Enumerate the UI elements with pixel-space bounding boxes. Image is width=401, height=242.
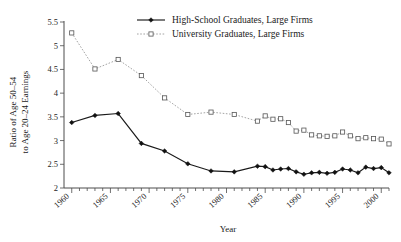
- axes: 22.533.544.555.5196019651970197519801985…: [47, 17, 389, 210]
- data-point: [333, 170, 338, 175]
- series-university: [70, 31, 391, 146]
- data-point: [286, 166, 291, 171]
- x-tick-label: 1980: [207, 191, 226, 210]
- legend-item: University Graduates, Large Firms: [137, 29, 305, 39]
- data-point: [69, 120, 74, 125]
- line-chart: 22.533.544.555.5196019651970197519801985…: [0, 0, 401, 242]
- series-line: [72, 33, 389, 144]
- data-point: [364, 136, 368, 140]
- y-tick-label: 5.5: [47, 17, 58, 27]
- data-point: [340, 130, 344, 134]
- data-point: [325, 171, 330, 176]
- data-point: [302, 128, 306, 132]
- x-tick-label: 1965: [90, 191, 109, 210]
- data-point: [309, 171, 314, 176]
- y-tick-label: 5: [54, 41, 58, 51]
- data-point: [348, 168, 353, 173]
- data-point: [310, 133, 314, 137]
- data-point: [139, 73, 143, 77]
- y-tick-label: 4.5: [47, 64, 58, 74]
- data-point: [278, 167, 283, 172]
- data-point: [286, 120, 290, 124]
- data-point: [263, 164, 268, 169]
- legend-marker-square: [149, 32, 153, 36]
- chart-legend: High-School Graduates, Large FirmsUniver…: [137, 15, 313, 39]
- data-point: [356, 137, 360, 141]
- data-point: [302, 172, 307, 177]
- series-line: [72, 114, 389, 175]
- x-tick-label: 1995: [323, 191, 342, 210]
- data-point: [317, 170, 322, 175]
- data-point: [186, 112, 190, 116]
- x-tick-label: 1960: [52, 191, 71, 210]
- data-point: [294, 170, 299, 175]
- data-point: [371, 166, 376, 171]
- x-tick-label: 2000: [361, 191, 380, 210]
- data-point: [232, 112, 236, 116]
- y-tick-label: 2: [54, 183, 58, 193]
- y-tick-label: 4: [54, 88, 59, 98]
- series-high-school: [69, 111, 391, 176]
- x-tick-label: 1990: [284, 191, 303, 210]
- x-tick-label: 1970: [129, 191, 148, 210]
- axis-spines: [64, 21, 389, 188]
- data-point: [209, 169, 214, 174]
- y-axis-title-line2: to Age 20–24 Earnings: [20, 70, 30, 153]
- data-point: [255, 164, 260, 169]
- data-point: [93, 113, 98, 118]
- y-axis-title-line1: Ratio of Age 50–54: [8, 76, 18, 147]
- y-tick-label: 2.5: [47, 159, 58, 169]
- data-point: [348, 134, 352, 138]
- data-point: [371, 137, 375, 141]
- data-point: [325, 134, 329, 138]
- data-point: [116, 57, 120, 61]
- data-point: [93, 67, 97, 71]
- legend-label: High-School Graduates, Large Firms: [172, 15, 313, 25]
- x-axis-title: Year: [220, 224, 237, 234]
- chart-figure: 22.533.544.555.5196019651970197519801985…: [0, 0, 401, 242]
- data-point: [271, 168, 276, 173]
- data-point: [271, 117, 275, 121]
- data-point: [340, 167, 345, 172]
- data-point: [317, 134, 321, 138]
- legend-item: High-School Graduates, Large Firms: [137, 15, 313, 25]
- x-tick-label: 1985: [245, 191, 264, 210]
- legend-marker-diamond: [149, 18, 154, 23]
- x-tick-label: 1975: [168, 191, 187, 210]
- data-point: [387, 142, 391, 146]
- data-point: [186, 162, 191, 167]
- data-series: [69, 31, 391, 177]
- data-point: [162, 149, 167, 154]
- data-point: [232, 170, 237, 175]
- data-point: [263, 114, 267, 118]
- data-point: [255, 119, 259, 123]
- data-point: [209, 110, 213, 114]
- data-point: [70, 31, 74, 35]
- data-point: [294, 129, 298, 133]
- y-tick-label: 3.5: [47, 112, 58, 122]
- data-point: [279, 117, 283, 121]
- data-point: [162, 96, 166, 100]
- y-tick-label: 3: [54, 136, 58, 146]
- data-point: [333, 134, 337, 138]
- data-point: [379, 137, 383, 141]
- legend-label: University Graduates, Large Firms: [172, 29, 305, 39]
